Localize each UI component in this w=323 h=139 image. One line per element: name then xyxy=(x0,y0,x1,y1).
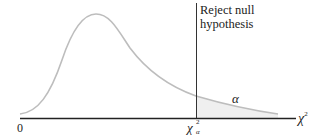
chi-exponent: 2 xyxy=(304,110,308,118)
chi-square-diagram xyxy=(0,0,323,139)
tail-area-label: α xyxy=(232,91,239,107)
critical-chi-symbol: χ xyxy=(187,120,193,135)
critical-value-label: χ 2 α xyxy=(187,120,193,136)
reject-label-line2: hypothesis xyxy=(200,17,255,31)
origin-label: 0 xyxy=(17,121,23,136)
x-axis-label: χ2 xyxy=(298,110,308,127)
critical-exponent: 2 xyxy=(196,118,200,126)
reject-null-hypothesis-label: Reject null hypothesis xyxy=(200,3,255,31)
critical-subscript: α xyxy=(196,128,200,136)
reject-label-line1: Reject null xyxy=(200,3,255,17)
